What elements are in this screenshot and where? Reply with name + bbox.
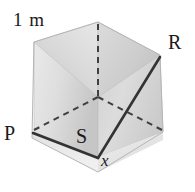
label-vertex-p: P [4,123,15,143]
label-angle-x: x [101,152,109,169]
label-edge-length: 1 m [13,10,45,29]
label-vertex-s: S [76,126,87,146]
label-vertex-r: R [168,32,181,52]
cube-figure: 1 m R P S x [0,0,195,192]
